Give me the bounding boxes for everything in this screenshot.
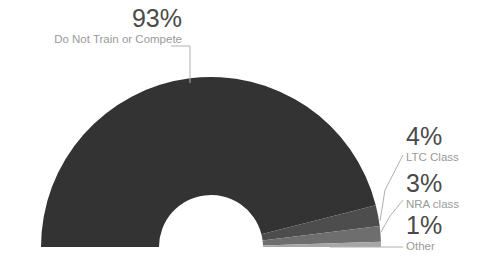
- leader-line-ltc: [380, 155, 403, 221]
- label-ltc-name: LTC Class: [406, 151, 459, 164]
- half-donut-chart: 93% Do Not Train or Compete 4% LTC Class…: [0, 0, 490, 272]
- label-do-not-train-or-compete[interactable]: 93% Do Not Train or Compete: [6, 6, 182, 46]
- label-ltc-class[interactable]: 4% LTC Class: [406, 124, 459, 164]
- label-other-name: Other: [406, 240, 442, 253]
- leader-line-main: [171, 46, 190, 83]
- label-nra-class[interactable]: 3% NRA class: [406, 171, 459, 211]
- label-other[interactable]: 1% Other: [406, 213, 442, 253]
- label-nra-name: NRA class: [406, 198, 459, 211]
- leader-line-nra: [381, 200, 403, 232]
- label-ltc-percent: 4%: [406, 124, 459, 149]
- label-main-percent: 93%: [6, 6, 182, 31]
- label-nra-percent: 3%: [406, 171, 459, 196]
- label-other-percent: 1%: [406, 213, 442, 238]
- label-main-name: Do Not Train or Compete: [6, 33, 182, 46]
